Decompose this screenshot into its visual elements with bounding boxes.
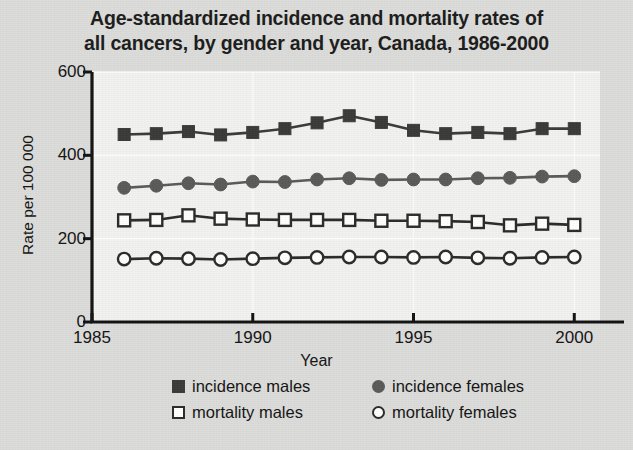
legend-item-mortality-males[interactable]: mortality males — [170, 403, 370, 422]
data-point-marker — [472, 216, 484, 228]
data-point-marker — [311, 251, 323, 263]
data-point-marker — [150, 128, 162, 140]
data-point-marker — [407, 173, 420, 186]
filled-square-icon — [170, 378, 192, 395]
data-point-marker — [311, 173, 324, 186]
data-point-marker — [118, 129, 130, 141]
data-point-marker — [504, 219, 516, 231]
x-axis-tick-label: 1985 — [57, 328, 127, 348]
data-point-marker — [439, 251, 451, 263]
legend-label: mortality males — [192, 403, 303, 422]
data-point-marker — [440, 128, 452, 140]
data-point-marker — [215, 129, 227, 141]
data-point-marker — [536, 170, 549, 183]
data-point-marker — [375, 251, 387, 263]
legend-item-incidence-males[interactable]: incidence males — [170, 377, 370, 396]
y-axis-tick-label: 600 — [28, 63, 86, 80]
legend-label: mortality females — [392, 403, 517, 422]
data-point-marker — [504, 252, 516, 264]
data-point-marker — [568, 251, 580, 263]
data-point-marker — [215, 213, 227, 225]
data-point-marker — [150, 252, 162, 264]
data-point-marker — [536, 123, 548, 135]
data-point-marker — [311, 117, 323, 129]
data-point-marker — [408, 215, 420, 227]
data-point-marker — [471, 172, 484, 185]
data-point-marker — [247, 126, 259, 138]
data-point-marker — [504, 171, 517, 184]
data-point-marker — [375, 215, 387, 227]
data-point-marker — [214, 178, 227, 191]
data-point-marker — [311, 214, 323, 226]
series-mortality-females — [118, 251, 581, 266]
data-point-marker — [343, 214, 355, 226]
data-point-marker — [182, 126, 194, 138]
data-point-marker — [246, 175, 259, 188]
series-mortality-males — [118, 209, 580, 231]
x-axis-tick-label: 1990 — [218, 328, 288, 348]
data-point-marker — [118, 214, 130, 226]
data-point-marker — [440, 215, 452, 227]
series-incidence-females — [118, 170, 581, 194]
legend-item-incidence-females[interactable]: incidence females — [370, 377, 570, 396]
data-point-marker — [279, 176, 292, 189]
data-point-marker — [150, 214, 162, 226]
data-point-marker — [439, 173, 452, 186]
data-point-marker — [536, 218, 548, 230]
data-point-marker — [375, 116, 387, 128]
legend-label: incidence males — [192, 377, 310, 396]
data-point-marker — [182, 209, 194, 221]
data-point-marker — [279, 252, 291, 264]
x-axis-label: Year — [0, 352, 633, 370]
data-point-marker — [247, 214, 259, 226]
legend-row: incidence malesincidence females — [170, 377, 570, 396]
data-point-marker — [407, 251, 419, 263]
data-point-marker — [504, 128, 516, 140]
legend-row: mortality malesmortality females — [170, 403, 570, 422]
chart-figure: Age-standardized incidence and mortality… — [0, 0, 633, 450]
y-axis-label: Rate per 100 000 — [19, 120, 37, 270]
data-point-marker — [408, 124, 420, 136]
x-axis-tick-label: 1995 — [379, 328, 449, 348]
series-incidence-males — [118, 110, 580, 141]
data-point-marker — [568, 170, 581, 183]
legend-label: incidence females — [392, 377, 524, 396]
data-point-marker — [568, 219, 580, 231]
data-point-marker — [568, 123, 580, 135]
legend-item-mortality-females[interactable]: mortality females — [370, 403, 570, 422]
data-point-marker — [343, 110, 355, 122]
chart-legend: incidence malesincidence femalesmortalit… — [170, 377, 570, 429]
data-point-marker — [279, 214, 291, 226]
open-circle-icon — [370, 404, 392, 421]
open-square-icon — [170, 404, 192, 421]
data-point-marker — [182, 177, 195, 190]
data-point-marker — [472, 252, 484, 264]
data-point-marker — [472, 126, 484, 138]
x-axis-tick-label: 2000 — [539, 328, 609, 348]
data-point-marker — [343, 251, 355, 263]
data-point-marker — [118, 253, 130, 265]
data-point-marker — [214, 253, 226, 265]
axis-spine — [92, 72, 624, 322]
data-point-marker — [279, 123, 291, 135]
data-point-marker — [536, 251, 548, 263]
data-point-marker — [375, 174, 388, 187]
data-point-marker — [182, 252, 194, 264]
data-point-marker — [150, 179, 163, 192]
data-point-marker — [247, 252, 259, 264]
data-point-marker — [343, 172, 356, 185]
data-point-marker — [118, 181, 131, 194]
filled-circle-icon — [370, 378, 392, 395]
